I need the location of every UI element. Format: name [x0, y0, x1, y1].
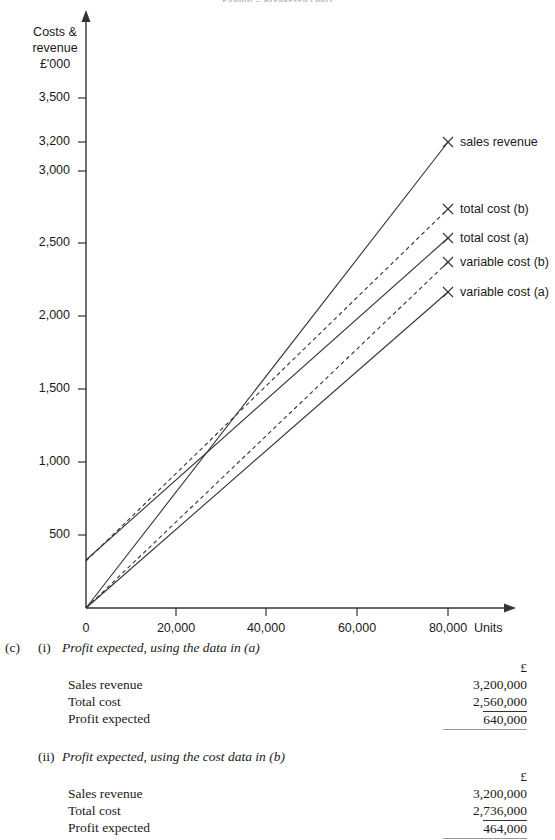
series-endpoint-variable-cost-a: [443, 287, 453, 297]
series-line-variable-cost-a: [86, 292, 448, 608]
y-axis-arrow: [82, 10, 91, 22]
row-label-sales-revenue-ii: Sales revenue: [68, 786, 143, 802]
x-tick-label-60000: 60,000: [317, 621, 397, 635]
y-tick-label-1500: 1,500: [8, 381, 70, 395]
table-row: Profit expected 464,000: [0, 820, 555, 840]
legend-label-sales-revenue: sales revenue: [460, 135, 538, 149]
y-axis-title-line-1: Costs &: [14, 24, 96, 40]
y-axis-title: Costs & revenue £'000: [14, 24, 96, 72]
x-tick-label-40000: 40,000: [226, 621, 306, 635]
currency-symbol-ii: £: [520, 769, 527, 785]
series-endpoint-sales-revenue: [443, 137, 453, 147]
series-line-variable-cost-b: [86, 262, 448, 608]
row-label-sales-revenue-i: Sales revenue: [68, 677, 143, 693]
y-tick-label-500: 500: [8, 527, 70, 541]
chart-canvas: [0, 0, 555, 640]
series-line-sales-revenue: [86, 142, 448, 608]
row-value-sales-revenue-i: 3,200,000: [473, 677, 527, 693]
row-value-total-cost-ii: 2,736,000: [473, 803, 527, 819]
table-row: Sales revenue 3,200,000: [0, 677, 555, 694]
y-axis-title-line-2: revenue: [14, 40, 96, 56]
row-label-total-cost-i: Total cost: [68, 694, 121, 710]
legend-label-variable-cost-b: variable cost (b): [460, 255, 549, 269]
workings-heading-i: (c) (i) Profit expected, using the data …: [0, 640, 555, 660]
row-label-profit-expected-ii: Profit expected: [68, 820, 150, 836]
y-tick-label-3200: 3,200: [8, 134, 70, 148]
workings-heading-ii: (ii) Profit expected, using the cost dat…: [0, 749, 555, 769]
series-endpoint-total-cost-b: [443, 204, 453, 214]
series-endpoint-total-cost-a: [443, 233, 453, 243]
legend-label-total-cost-b: total cost (b): [460, 202, 529, 216]
y-tick-marks: [78, 98, 86, 535]
table-row: Sales revenue 3,200,000: [0, 786, 555, 803]
x-axis-arrow: [504, 604, 516, 613]
y-axis-title-line-3: £'000: [14, 56, 96, 72]
table-row: Profit expected 640,000: [0, 711, 555, 731]
row-value-total-cost-i: 2,560,000: [473, 694, 527, 710]
row-value-profit-expected-ii: 464,000: [483, 820, 527, 837]
y-tick-label-3000: 3,000: [8, 163, 70, 177]
total-underline-i: [443, 729, 527, 730]
x-axis-title: Units: [474, 621, 502, 635]
table-row: Total cost 2,560,000: [0, 694, 555, 711]
y-tick-label-3500: 3,500: [8, 90, 70, 104]
y-tick-label-1000: 1,000: [8, 454, 70, 468]
total-underline-ii: [443, 838, 527, 839]
legend-label-variable-cost-a: variable cost (a): [460, 285, 549, 299]
legend-label-total-cost-a: total cost (a): [460, 231, 529, 245]
row-value-sales-revenue-ii: 3,200,000: [473, 786, 527, 802]
y-tick-label-2500: 2,500: [8, 235, 70, 249]
workings-section: (c) (i) Profit expected, using the data …: [0, 640, 555, 833]
series-endpoint-variable-cost-b: [443, 257, 453, 267]
workings-title-i: Profit expected, using the data in (a): [62, 640, 260, 656]
series-line-total-cost-a: [86, 238, 448, 560]
row-label-total-cost-ii: Total cost: [68, 803, 121, 819]
x-tick-label-20000: 20,000: [136, 621, 216, 635]
breakeven-chart: Costs & revenue £'000 500 1,000 1,500 2,…: [0, 0, 555, 640]
row-value-profit-expected-i: 640,000: [483, 711, 527, 728]
table-row: Total cost 2,736,000: [0, 803, 555, 820]
workings-title-ii: Profit expected, using the cost data in …: [62, 749, 285, 765]
workings-block-i: (c) (i) Profit expected, using the data …: [0, 640, 555, 731]
roman-marker-i: (i): [38, 640, 51, 656]
currency-symbol-i: £: [520, 660, 527, 676]
x-tick-label-0: 0: [46, 621, 126, 635]
y-tick-label-2000: 2,000: [8, 308, 70, 322]
roman-marker-ii: (ii): [38, 749, 55, 765]
row-label-profit-expected-i: Profit expected: [68, 711, 150, 727]
series-line-total-cost-b: [86, 209, 448, 561]
workings-block-ii: (ii) Profit expected, using the cost dat…: [0, 749, 555, 840]
part-marker-c: (c): [5, 640, 20, 656]
x-tick-marks: [176, 608, 448, 616]
currency-header-row-i: £: [0, 660, 555, 677]
currency-header-row-ii: £: [0, 769, 555, 786]
